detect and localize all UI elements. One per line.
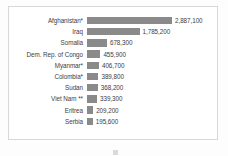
bar-track: 368,200	[87, 82, 217, 93]
chart-frame: Afghanistan*2,887,100Iraq1,785,200Somali…	[8, 6, 218, 140]
bar-row: Iraq1,785,200	[9, 26, 217, 37]
bar-track: 406,700	[87, 60, 217, 71]
bar-chart-plot-area: Afghanistan*2,887,100Iraq1,785,200Somali…	[9, 15, 217, 131]
bar-value-label: 368,200	[98, 84, 123, 91]
bar-value-label: 406,700	[99, 62, 124, 69]
chart-screenshot: Afghanistan*2,887,100Iraq1,785,200Somali…	[0, 0, 228, 156]
bar-value-label: 2,887,100	[172, 17, 203, 24]
bar-track: 455,900	[87, 49, 217, 60]
bar-row: Dem. Rep. of Congo455,900	[9, 49, 217, 60]
bar	[87, 17, 172, 24]
bar	[87, 39, 107, 46]
chart-legend-strip	[0, 143, 228, 156]
bar-row: Colombia*389,800	[9, 71, 217, 82]
bar-row: Viet Nam **339,300	[9, 93, 217, 104]
bar-value-label: 455,900	[100, 51, 125, 58]
bar-row: Eritrea209,200	[9, 105, 217, 116]
bar-category-label: Eritrea	[9, 107, 87, 114]
bar-track: 1,785,200	[87, 26, 217, 37]
bar	[87, 50, 100, 57]
bar-category-label: Somalia	[9, 39, 87, 46]
bar-category-label: Sudan	[9, 84, 87, 91]
bar-category-label: Myanmar*	[9, 62, 87, 69]
bar-category-label: Afghanistan*	[9, 17, 87, 24]
bar-category-label: Colombia*	[9, 73, 87, 80]
bar-category-label: Iraq	[9, 28, 87, 35]
bar	[87, 28, 140, 35]
bar	[87, 95, 97, 102]
bar-value-label: 389,800	[98, 73, 123, 80]
bar-category-label: Viet Nam **	[9, 95, 87, 102]
bar-value-label: 1,785,200	[140, 28, 171, 35]
bar-track: 2,887,100	[87, 15, 217, 26]
bar-track: 389,800	[87, 71, 217, 82]
bar-row: Sudan368,200	[9, 82, 217, 93]
bar-value-label: 339,300	[97, 95, 122, 102]
bar-value-label: 195,600	[93, 118, 118, 125]
bar-row: Serbia195,600	[9, 116, 217, 127]
bar-value-label: 209,200	[93, 107, 118, 114]
bar-track: 678,300	[87, 37, 217, 48]
bar	[87, 73, 98, 80]
bar	[87, 62, 99, 69]
bar-track: 209,200	[87, 105, 217, 116]
bar-row: Myanmar*406,700	[9, 60, 217, 71]
legend-inner	[110, 150, 118, 155]
bar-row: Somalia678,300	[9, 37, 217, 48]
bar-category-label: Serbia	[9, 118, 87, 125]
bar-track: 195,600	[87, 116, 217, 127]
bar-value-label: 678,300	[107, 39, 132, 46]
bar-category-label: Dem. Rep. of Congo	[9, 51, 87, 58]
bar	[87, 84, 98, 91]
legend-swatch-icon	[113, 150, 118, 155]
bar-track: 339,300	[87, 93, 217, 104]
bar-row: Afghanistan*2,887,100	[9, 15, 217, 26]
